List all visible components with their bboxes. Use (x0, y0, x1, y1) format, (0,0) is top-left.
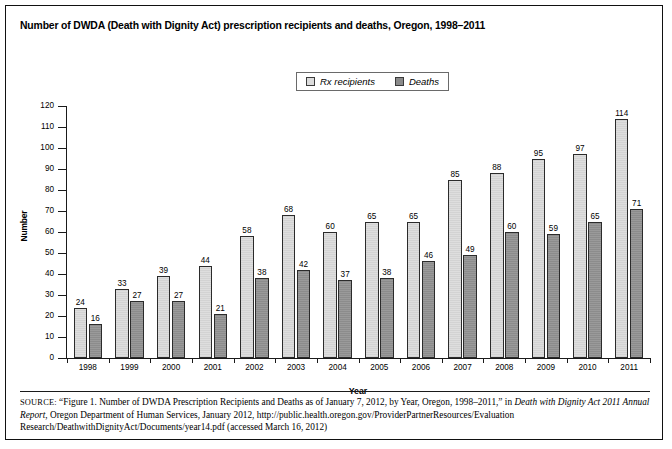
bar-deaths-2003 (297, 270, 311, 358)
bar-deaths-1998 (89, 324, 103, 358)
bar-deaths-2007 (463, 255, 477, 358)
y-axis-tick-label: 0 (20, 353, 54, 362)
bar-rx-recipients-2003 (282, 215, 296, 358)
y-axis-tick (58, 358, 67, 359)
bar-value-label: 65 (355, 212, 389, 221)
y-axis-tick-label: 110 (20, 122, 54, 131)
y-axis-tick (58, 232, 67, 233)
bar-value-label: 27 (120, 291, 154, 300)
y-axis-tick (58, 316, 67, 317)
y-axis-tick-label: 60 (20, 227, 54, 236)
bar-deaths-1999 (130, 301, 144, 358)
bar-rx-recipients-2009 (532, 159, 546, 359)
bar-rx-recipients-2007 (448, 180, 462, 359)
bar-value-label: 44 (188, 256, 222, 265)
bar-deaths-2008 (505, 232, 519, 358)
bar-value-label: 38 (245, 268, 279, 277)
bar-value-label: 71 (620, 199, 654, 208)
bar-value-label: 60 (313, 222, 347, 231)
y-axis-tick (58, 295, 67, 296)
bar-value-label: 59 (536, 224, 570, 233)
bar-rx-recipients-2008 (490, 173, 504, 358)
y-axis-tick (58, 337, 67, 338)
bar-value-label: 65 (396, 212, 430, 221)
x-axis-tick-label: 2011 (609, 363, 649, 372)
x-axis-tick (650, 358, 651, 363)
bar-deaths-2002 (255, 278, 269, 358)
source-text-part1: “Figure 1. Number of DWDA Prescription R… (57, 397, 515, 407)
bar-deaths-2004 (338, 280, 352, 358)
x-axis-tick-label: 2006 (401, 363, 441, 372)
y-axis-tick (58, 127, 67, 128)
source-text-part2: , Oregon Department of Human Services, J… (20, 410, 514, 432)
bars-layer: 2416332739274421583868426037653865468549… (67, 106, 650, 358)
x-axis-tick-label: 2010 (568, 363, 608, 372)
source-label: SOURCE: (20, 398, 57, 407)
y-axis-tick-label: 80 (20, 185, 54, 194)
bar-value-label: 16 (78, 314, 112, 323)
bar-deaths-2010 (588, 222, 602, 359)
bar-deaths-2009 (547, 234, 561, 358)
bar-value-label: 65 (578, 212, 612, 221)
bar-deaths-2001 (214, 314, 228, 358)
bar-value-label: 39 (147, 266, 181, 275)
y-axis-tick-label: 40 (20, 269, 54, 278)
x-axis-tick-label: 1999 (109, 363, 149, 372)
y-axis-tick-label: 90 (20, 164, 54, 173)
x-axis-tick-label: 2007 (443, 363, 483, 372)
bar-value-label: 97 (563, 144, 597, 153)
x-axis-tick-label: 2003 (276, 363, 316, 372)
bar-value-label: 114 (605, 109, 639, 118)
bar-deaths-2011 (630, 209, 644, 358)
y-axis-tick-label: 100 (20, 143, 54, 152)
bar-rx-recipients-2006 (407, 222, 421, 359)
x-axis-tick-label: 2004 (318, 363, 358, 372)
bar-value-label: 42 (287, 260, 321, 269)
y-axis-tick (58, 211, 67, 212)
y-axis-tick-label: 20 (20, 311, 54, 320)
y-axis-tick (58, 274, 67, 275)
bar-rx-recipients-2002 (240, 236, 254, 358)
y-axis-tick (58, 106, 67, 107)
y-axis-tick-label: 70 (20, 206, 54, 215)
bar-deaths-2005 (380, 278, 394, 358)
x-axis-tick-label: 1998 (68, 363, 108, 372)
source-note: SOURCE: “Figure 1. Number of DWDA Prescr… (20, 396, 656, 433)
y-axis-tick (58, 169, 67, 170)
bar-value-label: 49 (453, 245, 487, 254)
chart-plot-area: Number Year 0102030405060708090100110120… (6, 6, 664, 441)
figure-frame: Number of DWDA (Death with Dignity Act) … (5, 5, 663, 440)
bar-value-label: 88 (480, 163, 514, 172)
bar-value-label: 21 (203, 304, 237, 313)
bar-deaths-2000 (172, 301, 186, 358)
x-axis-tick-label: 2008 (484, 363, 524, 372)
bar-value-label: 24 (63, 298, 97, 307)
x-axis-tick-label: 2009 (526, 363, 566, 372)
x-axis-tick-label: 2001 (193, 363, 233, 372)
x-axis-tick-label: 2002 (234, 363, 274, 372)
bar-value-label: 58 (230, 226, 264, 235)
y-axis-tick-label: 10 (20, 332, 54, 341)
bar-value-label: 60 (495, 222, 529, 231)
x-axis-tick-label: 2000 (151, 363, 191, 372)
bar-value-label: 85 (438, 170, 472, 179)
bar-value-label: 37 (328, 270, 362, 279)
source-divider (20, 391, 650, 392)
y-axis-tick (58, 253, 67, 254)
bar-value-label: 38 (370, 268, 404, 277)
bar-value-label: 46 (411, 251, 445, 260)
y-axis-tick (58, 190, 67, 191)
y-axis-tick-label: 120 (20, 101, 54, 110)
y-axis-title: Number (19, 196, 29, 256)
bar-value-label: 95 (521, 149, 555, 158)
y-axis-tick-label: 30 (20, 290, 54, 299)
bar-value-label: 68 (272, 205, 306, 214)
bar-rx-recipients-2005 (365, 222, 379, 359)
bar-value-label: 33 (105, 279, 139, 288)
y-axis-tick-label: 50 (20, 248, 54, 257)
bar-rx-recipients-2004 (323, 232, 337, 358)
y-axis-tick (58, 148, 67, 149)
bar-deaths-2006 (422, 261, 436, 358)
bar-rx-recipients-2000 (157, 276, 171, 358)
bar-rx-recipients-2010 (573, 154, 587, 358)
